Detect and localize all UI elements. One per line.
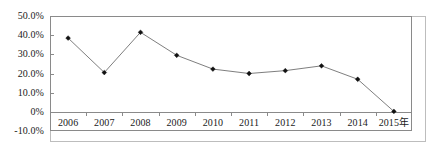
series-data-point: 2011: 20.0% <box>247 71 252 76</box>
series-data-point: 2013: 24.0% <box>319 63 324 68</box>
series-marker-group: 2006: 38.5%2007: 20.5%2008: 41.5%2009: 2… <box>66 30 397 114</box>
series-overlay: 2006: 38.5%2007: 20.5%2008: 41.5%2009: 2… <box>0 0 447 152</box>
series-polyline <box>68 32 394 111</box>
series-data-point: 2012: 21.5% <box>283 68 288 73</box>
series-data-point: 2010: 22.3% <box>211 67 216 72</box>
chart-screenshot: 50.0%40.0%30.0%20.0%10.0%0%-10.0% 200620… <box>0 0 447 152</box>
series-data-point: 2009: 29.5% <box>174 53 179 58</box>
